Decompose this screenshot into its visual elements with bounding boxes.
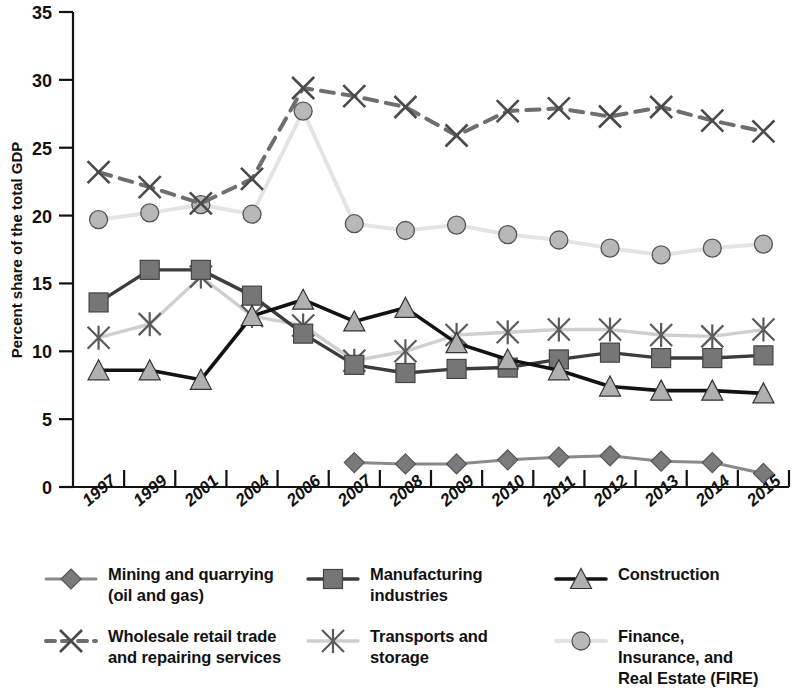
y-tick-label: 0 xyxy=(42,478,52,498)
data-point-square xyxy=(191,260,210,279)
data-point-circle xyxy=(243,205,261,223)
data-point-circle xyxy=(345,215,363,233)
data-point-square xyxy=(345,355,364,374)
y-axis-ticks: 05101520253035 xyxy=(32,3,73,498)
x-tick-label: 2001 xyxy=(180,471,222,511)
data-point-circle xyxy=(396,222,414,240)
data-point-diamond xyxy=(344,453,364,473)
legend-label-transports: Transports and storage xyxy=(370,626,488,668)
legend-item-fire[interactable]: Finance, Insurance, and Real Estate (FIR… xyxy=(554,626,759,689)
legend-swatch-fire xyxy=(554,628,608,654)
legend-swatch-construction xyxy=(554,566,608,592)
legend-item-transports[interactable]: Transports and storage xyxy=(306,626,554,668)
data-point-square xyxy=(396,364,415,383)
line-chart-svg: Percent share of the total GDP 051015202… xyxy=(0,0,803,560)
data-point-circle xyxy=(754,235,772,253)
data-point-diamond xyxy=(61,569,81,589)
legend-swatch-mining xyxy=(44,566,98,592)
axis-lines xyxy=(73,12,789,487)
x-tick-label: 2009 xyxy=(436,471,478,511)
data-point-square xyxy=(703,349,722,368)
x-tick-label: 2004 xyxy=(231,471,273,511)
data-point-square xyxy=(140,260,159,279)
x-tick-label: 2014 xyxy=(691,471,733,511)
legend-item-mining[interactable]: Mining and quarrying (oil and gas) xyxy=(44,564,306,606)
y-tick-label: 30 xyxy=(32,71,52,91)
data-point-diamond xyxy=(702,453,722,473)
x-tick-label: 2008 xyxy=(385,471,427,511)
x-tick-label: 2011 xyxy=(538,472,579,511)
data-point-circle xyxy=(601,239,619,257)
data-point-diamond xyxy=(651,451,671,471)
legend-label-fire: Finance, Insurance, and Real Estate (FIR… xyxy=(618,626,759,689)
data-point-diamond xyxy=(600,446,620,466)
data-point-x xyxy=(88,161,110,183)
y-tick-label: 15 xyxy=(32,274,52,294)
data-series-layer xyxy=(88,77,775,483)
series-square xyxy=(89,260,773,382)
y-tick-label: 10 xyxy=(32,342,52,362)
data-point-diamond xyxy=(447,454,467,474)
x-tick-label: 2010 xyxy=(487,471,529,511)
legend-swatch-wholesale xyxy=(44,628,98,654)
data-point-circle xyxy=(141,204,159,222)
data-point-square xyxy=(324,570,343,589)
legend-label-manufacturing: Manufacturing industries xyxy=(370,564,482,606)
legend-label-mining: Mining and quarrying (oil and gas) xyxy=(108,564,274,606)
data-point-x xyxy=(139,176,161,198)
data-point-circle xyxy=(448,216,466,234)
chart-legend: Mining and quarrying (oil and gas) Manuf… xyxy=(0,556,803,696)
data-point-square xyxy=(447,359,466,378)
chart-figure: Percent share of the total GDP 051015202… xyxy=(0,0,803,696)
y-tick-label: 35 xyxy=(32,3,52,23)
data-point-square xyxy=(89,293,108,312)
data-point-circle xyxy=(550,231,568,249)
data-point-circle xyxy=(90,211,108,229)
x-axis-ticks: 1997199920012004200620072008200920102011… xyxy=(79,470,789,511)
y-tick-label: 5 xyxy=(42,410,52,430)
legend-label-wholesale: Wholesale retail trade and repairing ser… xyxy=(108,626,281,668)
data-point-triangle xyxy=(395,297,416,317)
x-tick-label: 2012 xyxy=(589,471,631,511)
data-point-square xyxy=(754,346,773,365)
y-tick-label: 25 xyxy=(32,139,52,159)
data-point-asterisk xyxy=(139,312,161,336)
x-tick-label: 1999 xyxy=(130,471,172,510)
data-point-circle xyxy=(572,632,590,650)
legend-swatch-transports xyxy=(306,628,360,654)
x-tick-label: 2007 xyxy=(333,470,376,511)
series-line xyxy=(99,111,764,255)
data-point-x xyxy=(446,125,468,147)
data-point-square xyxy=(601,343,620,362)
legend-item-wholesale[interactable]: Wholesale retail trade and repairing ser… xyxy=(44,626,306,668)
data-point-square xyxy=(652,349,671,368)
data-point-asterisk xyxy=(88,326,110,350)
x-tick-label: 2013 xyxy=(640,471,682,511)
x-tick-label: 2006 xyxy=(282,471,324,511)
legend-item-manufacturing[interactable]: Manufacturing industries xyxy=(306,564,554,606)
data-point-circle xyxy=(652,246,670,264)
plot-area: Percent share of the total GDP 051015202… xyxy=(0,0,803,560)
data-point-circle xyxy=(294,102,312,120)
series-x xyxy=(88,77,775,214)
y-axis-title-label: Percent share of the total GDP xyxy=(8,142,25,359)
data-point-triangle xyxy=(293,289,314,309)
data-point-diamond xyxy=(498,450,518,470)
data-point-square xyxy=(294,324,313,343)
legend-item-construction[interactable]: Construction xyxy=(554,564,759,592)
data-point-square xyxy=(243,286,262,305)
series-circle xyxy=(90,102,773,264)
data-point-circle xyxy=(499,226,517,244)
data-point-diamond xyxy=(549,447,569,467)
y-tick-label: 20 xyxy=(32,207,52,227)
data-point-circle xyxy=(703,239,721,257)
legend-label-construction: Construction xyxy=(618,564,719,585)
data-point-diamond xyxy=(395,454,415,474)
y-axis-title: Percent share of the total GDP xyxy=(8,142,25,359)
legend-swatch-manufacturing xyxy=(306,566,360,592)
x-tick-label: 1997 xyxy=(79,470,121,510)
data-point-x xyxy=(241,168,263,190)
